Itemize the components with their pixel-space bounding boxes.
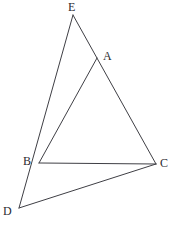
vertex-label-B: B bbox=[23, 155, 31, 167]
segment-BC bbox=[39, 163, 156, 164]
segment-ED bbox=[19, 15, 73, 208]
vertex-label-D: D bbox=[3, 205, 12, 217]
vertex-label-A: A bbox=[103, 50, 112, 62]
vertex-label-E: E bbox=[68, 1, 75, 13]
geometry-figure: E A B C D bbox=[0, 0, 172, 228]
segment-DC bbox=[19, 164, 156, 208]
vertex-label-C: C bbox=[160, 157, 168, 169]
figure-canvas bbox=[0, 0, 172, 228]
segments-group bbox=[19, 15, 156, 208]
segment-BA bbox=[39, 58, 97, 163]
segment-EC bbox=[73, 15, 156, 164]
